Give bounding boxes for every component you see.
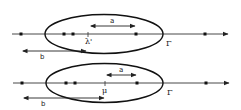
diagram-canvas: λ' a b Γ μ a b Γ [0,0,241,110]
interval-a-label: a [110,17,114,25]
panel-top: λ' a b Γ [12,15,228,62]
point-label-lambda: λ' [85,37,92,46]
panel-bottom: μ a b Γ [13,64,229,109]
interval-a-label: a [119,66,123,74]
interval-b-label: b [40,53,45,61]
interval-b-label: b [41,100,46,108]
contour-label-gamma: Γ [167,88,173,97]
contour-label-gamma: Γ [166,39,172,48]
point-label-mu: μ [102,86,107,95]
